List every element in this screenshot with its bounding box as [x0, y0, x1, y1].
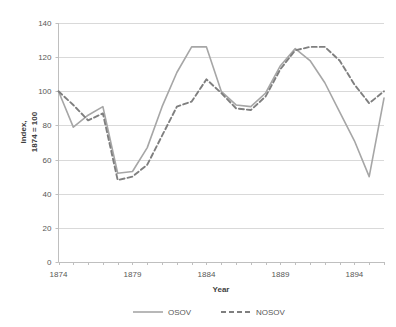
- x-axis-title: Year: [213, 285, 230, 294]
- y-tick-label-80: 80: [43, 121, 52, 130]
- y-tick-label-120: 120: [38, 53, 52, 62]
- y-axis-title-line1: Index,: [19, 120, 28, 143]
- legend-label-osov: OSOV: [168, 308, 192, 317]
- y-tick-label-0: 0: [47, 258, 52, 267]
- line-chart: 020406080100120140 18741879188418891894 …: [0, 0, 396, 327]
- x-tick-label-1894: 1894: [346, 270, 364, 279]
- x-tick-label-1879: 1879: [124, 270, 142, 279]
- y-tick-label-140: 140: [38, 19, 52, 28]
- y-tick-label-40: 40: [43, 190, 52, 199]
- y-tick-label-20: 20: [43, 224, 52, 233]
- y-tick-label-60: 60: [43, 156, 52, 165]
- x-tick-label-1889: 1889: [272, 270, 290, 279]
- x-tick-label-1884: 1884: [198, 270, 216, 279]
- legend-label-nosov: NOSOV: [256, 308, 286, 317]
- chart-figure: 020406080100120140 18741879188418891894 …: [0, 0, 396, 327]
- y-axis-title-line2: 1874 = 100: [30, 111, 39, 152]
- y-tick-label-100: 100: [38, 87, 52, 96]
- x-tick-label-1874: 1874: [50, 270, 68, 279]
